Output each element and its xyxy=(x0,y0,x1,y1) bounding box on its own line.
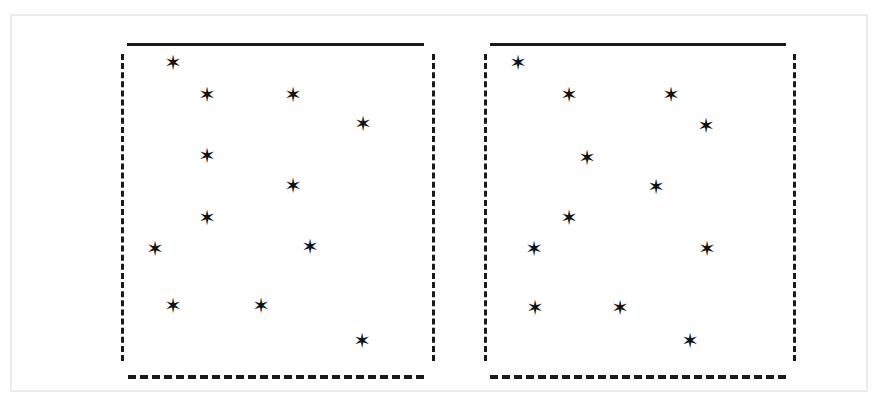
asterisk-star-marker: ✶ xyxy=(301,238,319,256)
asterisk-star-marker: ✶ xyxy=(164,297,182,315)
right-panel-bottom-edge-dashed xyxy=(490,375,786,379)
asterisk-star-marker: ✶ xyxy=(560,209,578,227)
asterisk-star-marker: ✶ xyxy=(525,240,543,258)
asterisk-star-marker: ✶ xyxy=(560,86,578,104)
left-panel-top-edge-solid xyxy=(127,43,424,46)
left-panel-left-edge-dashed xyxy=(121,54,124,361)
asterisk-star-marker: ✶ xyxy=(284,177,302,195)
asterisk-star-marker: ✶ xyxy=(353,332,371,350)
asterisk-star-marker: ✶ xyxy=(681,332,699,350)
asterisk-star-marker: ✶ xyxy=(284,86,302,104)
asterisk-star-marker: ✶ xyxy=(647,178,665,196)
asterisk-star-marker: ✶ xyxy=(509,54,527,72)
asterisk-star-marker: ✶ xyxy=(252,297,270,315)
right-panel-top-edge-solid xyxy=(490,43,786,46)
asterisk-star-marker: ✶ xyxy=(526,299,544,317)
asterisk-star-marker: ✶ xyxy=(146,240,164,258)
asterisk-star-marker: ✶ xyxy=(198,209,216,227)
right-panel-left-edge-dashed xyxy=(484,54,487,361)
figure-canvas: ✶✶✶✶✶✶✶✶✶✶✶✶✶✶✶✶✶✶✶✶✶✶✶✶ xyxy=(0,0,881,409)
asterisk-star-marker: ✶ xyxy=(578,149,596,167)
asterisk-star-marker: ✶ xyxy=(611,299,629,317)
asterisk-star-marker: ✶ xyxy=(354,115,372,133)
asterisk-star-marker: ✶ xyxy=(164,54,182,72)
asterisk-star-marker: ✶ xyxy=(198,147,216,165)
asterisk-star-marker: ✶ xyxy=(662,86,680,104)
asterisk-star-marker: ✶ xyxy=(198,86,216,104)
asterisk-star-marker: ✶ xyxy=(698,240,716,258)
right-panel-right-edge-dashed xyxy=(793,54,796,361)
outer-frame-border xyxy=(10,14,868,392)
asterisk-star-marker: ✶ xyxy=(697,117,715,135)
left-panel-bottom-edge-dashed xyxy=(128,375,424,379)
left-panel-right-edge-dashed xyxy=(432,54,435,361)
